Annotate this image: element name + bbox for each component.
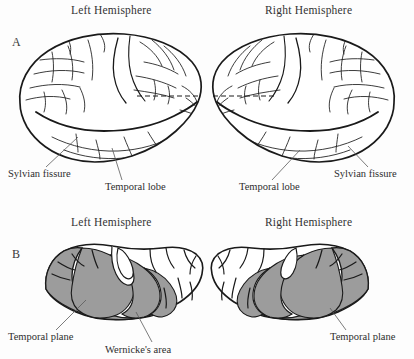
label-right-temporal-plane: Temporal plane: [330, 331, 395, 342]
panel-a-letter: A: [12, 35, 21, 50]
label-left-temporal-plane: Temporal plane: [8, 331, 73, 342]
leader-left-temporal-lobe: [112, 148, 122, 180]
label-left-temporal-lobe: Temporal lobe: [105, 181, 166, 192]
label-right-sylvian-fissure: Sylvian fissure: [334, 168, 397, 179]
panel-b-letter: B: [12, 247, 20, 262]
right-temporal-plane-shading: [246, 248, 368, 320]
label-wernickes-area: Wernicke's area: [105, 344, 171, 355]
label-left-sylvian-fissure: Sylvian fissure: [8, 168, 71, 179]
leader-left-temporal-plane: [56, 300, 86, 330]
panel-b-right-hemisphere-heading: Right Hemisphere: [265, 216, 352, 228]
leader-right-temporal-plane: [330, 308, 346, 330]
leader-right-temporal-lobe: [272, 150, 300, 180]
panel-b-left-hemisphere-heading: Left Hemisphere: [71, 216, 152, 228]
left-hemisphere-lateral-drawing: [20, 34, 201, 162]
right-temporal-plane-section-drawing: [211, 244, 368, 319]
panel-a-right-hemisphere-heading: Right Hemisphere: [265, 4, 352, 16]
leader-right-sylvian-fissure: [348, 146, 368, 167]
right-hemisphere-lateral-drawing: [213, 34, 394, 162]
left-temporal-plane-section-drawing: [46, 244, 203, 319]
panel-a-left-hemisphere-heading: Left Hemisphere: [71, 4, 152, 16]
leader-wernickes-area: [136, 312, 152, 342]
figure-artwork: [0, 0, 414, 359]
leader-left-sylvian-fissure: [46, 137, 78, 167]
label-right-temporal-lobe: Temporal lobe: [239, 181, 300, 192]
brain-asymmetry-figure: Left Hemisphere Right Hemisphere A Left …: [0, 0, 414, 359]
left-temporal-plane-shading: [46, 248, 168, 320]
